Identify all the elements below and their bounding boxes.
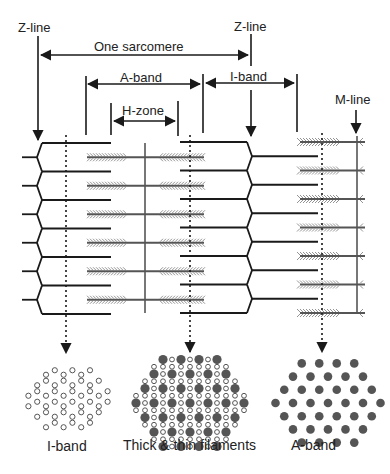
thick-filament-dot xyxy=(350,386,359,395)
thin-filament-dot xyxy=(233,393,238,398)
myosin-head xyxy=(178,301,181,304)
thick-filament-dot xyxy=(315,386,324,395)
myosin-head xyxy=(190,272,193,275)
thin-filament-dot xyxy=(161,379,166,384)
myosin-head xyxy=(172,296,175,299)
myosin-head xyxy=(99,210,102,213)
myosin-head xyxy=(315,200,318,203)
thin-filament-dot xyxy=(170,386,175,391)
thin-filament-dot xyxy=(242,408,247,413)
myosin-head xyxy=(87,187,90,190)
thin-filament-dot xyxy=(70,414,75,419)
myosin-head xyxy=(105,158,108,161)
myosin-head xyxy=(199,182,202,185)
myosin-head xyxy=(303,281,306,284)
thick-filament-dot xyxy=(306,425,315,434)
thick-filament-dot xyxy=(185,427,194,436)
myosin-head xyxy=(93,296,96,299)
myosin-head xyxy=(324,281,327,284)
myosin-head xyxy=(175,296,178,299)
myosin-head xyxy=(193,210,196,213)
thick-filament-dot xyxy=(239,398,248,407)
myosin-head xyxy=(117,187,120,190)
thick-filament-dot xyxy=(289,372,298,381)
thin-filament-dot xyxy=(233,379,238,384)
myosin-head xyxy=(330,172,333,175)
thin-filament-dot xyxy=(143,393,148,398)
myosin-head xyxy=(120,239,123,242)
z-line-left-label: Z-line xyxy=(18,20,51,35)
myosin-head xyxy=(96,215,99,218)
myosin-head xyxy=(172,158,175,161)
thin-filament-dot xyxy=(143,401,148,406)
z-disc-right-segment xyxy=(247,199,252,228)
thin-filament-dot xyxy=(188,393,193,398)
myosin-head xyxy=(360,229,363,232)
thin-filament-dot xyxy=(35,383,40,388)
myosin-head xyxy=(160,182,163,185)
myosin-head xyxy=(193,239,196,242)
myosin-head xyxy=(327,172,330,175)
myosin-head xyxy=(99,187,102,190)
myosin-head xyxy=(318,252,321,255)
myosin-head xyxy=(169,153,172,156)
thick-filament-dot xyxy=(350,359,359,368)
myosin-head xyxy=(181,210,184,213)
myosin-head xyxy=(172,215,175,218)
thin-filament-dot xyxy=(161,430,166,435)
myosin-head xyxy=(336,172,339,175)
thin-filament-dot xyxy=(224,415,229,420)
myosin-head xyxy=(160,244,163,247)
myosin-head xyxy=(102,267,105,270)
thin-filament-dot xyxy=(61,393,66,398)
myosin-head xyxy=(99,296,102,299)
myosin-head xyxy=(300,224,303,227)
myosin-head xyxy=(123,301,126,304)
myosin-head xyxy=(297,229,300,232)
myosin-head xyxy=(327,224,330,227)
thin-filament-dot xyxy=(52,414,57,419)
myosin-head xyxy=(300,200,303,203)
myosin-head xyxy=(336,281,339,284)
myosin-head xyxy=(202,187,205,190)
thin-filament-dot xyxy=(52,383,57,388)
myosin-head xyxy=(333,200,336,203)
myosin-head xyxy=(99,301,102,304)
thin-filament-dot xyxy=(152,393,157,398)
myosin-head xyxy=(318,286,321,289)
sarcomere-diagram: Z-line Z-line One sarcomere A-band I-ban… xyxy=(0,0,390,474)
myosin-head xyxy=(321,200,324,203)
myosin-head xyxy=(315,138,318,141)
myosin-head xyxy=(96,210,99,213)
myosin-head xyxy=(327,281,330,284)
myosin-head xyxy=(175,187,178,190)
thick-filament-dot xyxy=(185,398,194,407)
myosin-head xyxy=(108,244,111,247)
myosin-head xyxy=(327,314,330,317)
myosin-head xyxy=(163,182,166,185)
myosin-head xyxy=(111,296,114,299)
myosin-head xyxy=(178,296,181,299)
myosin-head xyxy=(96,182,99,185)
thin-filament-dot xyxy=(35,414,40,419)
myosin-head xyxy=(330,224,333,227)
myosin-head xyxy=(163,210,166,213)
myosin-head xyxy=(333,224,336,227)
myosin-head xyxy=(90,210,93,213)
myosin-head xyxy=(87,272,90,275)
myosin-head xyxy=(105,244,108,247)
myosin-head xyxy=(199,301,202,304)
myosin-head xyxy=(315,195,318,198)
myosin-head xyxy=(327,200,330,203)
myosin-head xyxy=(102,215,105,218)
thin-filament-dot xyxy=(105,399,110,404)
myosin-head xyxy=(300,138,303,141)
myosin-head xyxy=(196,301,199,304)
cross-thick-thin-label: Thick & thin filaments xyxy=(123,437,256,453)
thin-filament-dot xyxy=(170,379,175,384)
myosin-head xyxy=(315,143,318,146)
myosin-head xyxy=(196,182,199,185)
thin-filament-dot xyxy=(70,399,75,404)
myosin-head xyxy=(330,200,333,203)
myosin-head xyxy=(196,244,199,247)
